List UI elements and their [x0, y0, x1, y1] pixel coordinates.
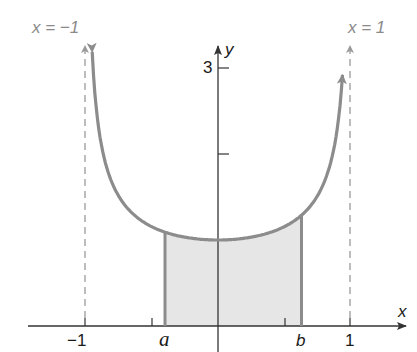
asymptote-right-text: x = 1	[348, 18, 385, 37]
shaded-area	[165, 215, 302, 326]
asymptote-left-label: x = −1	[32, 18, 79, 38]
y-axis-label: y	[225, 40, 234, 60]
x-tick-label-1: 1	[345, 331, 354, 351]
graph-figure	[0, 0, 417, 352]
y-tick-label-3: 3	[203, 58, 212, 78]
x-tick-label-neg1: −1	[67, 331, 86, 351]
asymptote-right-label: x = 1	[348, 18, 385, 38]
x-label-b: b	[296, 331, 305, 351]
asymptote-left-text: x = −1	[32, 18, 79, 37]
x-label-a: a	[159, 327, 170, 352]
x-axis-label: x	[398, 302, 407, 322]
